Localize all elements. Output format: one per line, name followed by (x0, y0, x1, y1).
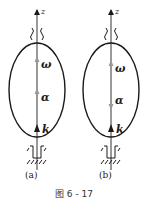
omega-vector (35, 56, 40, 72)
k-label: k (116, 123, 124, 136)
alpha-label: α (41, 91, 50, 104)
omega-label: ω (41, 58, 52, 71)
figure-caption: 图 6 - 17 (55, 189, 93, 199)
z-axis-label: z (40, 7, 46, 16)
panel-a-sublabel: (a) (25, 170, 37, 180)
alpha-vector (109, 88, 114, 110)
alpha-label: α (115, 94, 124, 107)
k-label: k (42, 123, 50, 136)
omega-vector (109, 60, 114, 76)
panel-b-sublabel: (b) (99, 170, 112, 180)
alpha-vector (35, 88, 40, 110)
k-vector (34, 124, 40, 132)
k-vector (108, 124, 114, 132)
omega-label: ω (115, 62, 126, 75)
panel-b: z ω α k (b) (83, 7, 139, 180)
figure-canvas: z ω α k (a) (0, 0, 148, 202)
panel-a: z ω α k (a) (9, 7, 65, 180)
z-axis-label: z (114, 7, 120, 16)
